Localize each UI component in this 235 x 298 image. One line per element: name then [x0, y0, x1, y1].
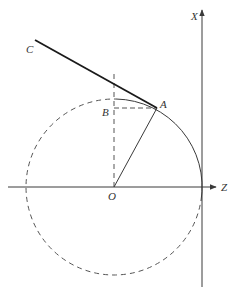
geometry-diagram: C A B O X Z [0, 0, 235, 298]
radius-oa [114, 108, 157, 187]
solid-arc [116, 99, 202, 201]
label-a: A [159, 98, 167, 110]
label-o: O [108, 190, 116, 202]
line-ca [35, 40, 157, 108]
solid-arc-stroke [116, 99, 202, 201]
label-x: X [190, 10, 199, 22]
label-b: B [102, 106, 109, 118]
label-c: C [26, 43, 34, 55]
label-z: Z [221, 181, 228, 193]
